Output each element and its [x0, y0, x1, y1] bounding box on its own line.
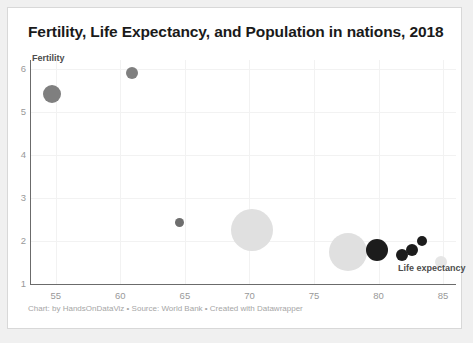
plot-area: 123456 55606570758085 Fertility Life exp… — [8, 8, 463, 330]
x-tick-label: 75 — [302, 290, 326, 301]
x-tick-label: 85 — [431, 290, 455, 301]
gridline-vertical — [443, 60, 444, 284]
x-axis-line — [30, 284, 456, 285]
y-tick-label: 6 — [12, 63, 26, 74]
bubble-point[interactable] — [175, 218, 184, 227]
y-tick-label: 4 — [12, 149, 26, 160]
gridline-vertical — [185, 60, 186, 284]
gridline-horizontal — [30, 69, 456, 70]
x-tick-label: 80 — [367, 290, 391, 301]
y-tick-label: 1 — [12, 278, 26, 289]
bubble-point[interactable] — [231, 209, 273, 251]
chart-footer: Chart: by HandsOnDataViz • Source: World… — [28, 304, 303, 313]
gridline-horizontal — [30, 198, 456, 199]
gridline-vertical — [314, 60, 315, 284]
bubble-point[interactable] — [366, 239, 388, 261]
y-tick-label: 5 — [12, 106, 26, 117]
bubble-point[interactable] — [43, 85, 61, 103]
y-tick-label: 3 — [12, 192, 26, 203]
chart-card: Fertility, Life Expectancy, and Populati… — [7, 7, 462, 329]
y-axis-line — [30, 60, 31, 284]
gridline-horizontal — [30, 155, 456, 156]
bubble-point[interactable] — [329, 233, 367, 271]
x-tick-label: 65 — [173, 290, 197, 301]
x-tick-label: 55 — [44, 290, 68, 301]
gridline-vertical — [120, 60, 121, 284]
y-axis-label: Fertility — [32, 53, 65, 63]
bubble-point[interactable] — [417, 236, 427, 246]
y-tick-label: 2 — [12, 235, 26, 246]
x-tick-label: 70 — [237, 290, 261, 301]
gridline-horizontal — [30, 112, 456, 113]
bubble-point[interactable] — [126, 67, 138, 79]
bubble-point[interactable] — [406, 244, 418, 256]
x-tick-label: 60 — [108, 290, 132, 301]
x-axis-label: Life expectancy — [398, 263, 466, 273]
